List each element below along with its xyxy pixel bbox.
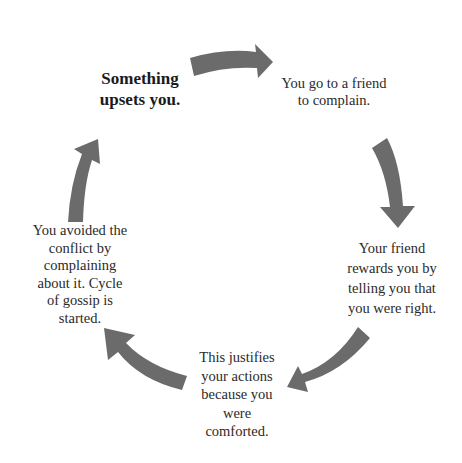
node-text-line: Your friend xyxy=(338,238,446,258)
arrow-down-icon xyxy=(372,138,415,228)
node-text-line: You go to a friend xyxy=(268,75,400,92)
node-text-line: started. xyxy=(24,310,136,328)
node-text-line: because you xyxy=(186,385,288,404)
node-something-upsets-you: Something upsets you. xyxy=(92,68,188,110)
node-text-line: conflict by xyxy=(24,240,136,258)
node-go-to-friend: You go to a friend to complain. xyxy=(268,75,400,109)
arrow-down-left-icon xyxy=(287,327,370,392)
node-friend-rewards-you: Your friend rewards you by telling you t… xyxy=(338,238,446,318)
node-text-line: This justifies xyxy=(186,348,288,367)
node-text-line: about it. Cycle xyxy=(24,275,136,293)
node-text-line: comforted. xyxy=(186,422,288,441)
node-text-line: to complain. xyxy=(268,92,400,109)
node-text-line: telling you that xyxy=(338,278,446,298)
node-text-line: rewards you by xyxy=(338,258,446,278)
node-text-line: were xyxy=(186,404,288,423)
node-avoided-conflict: You avoided the conflict by complaining … xyxy=(24,222,136,328)
node-text-line: of gossip is xyxy=(24,292,136,310)
arrow-up-left-icon xyxy=(104,328,187,390)
arrow-up-icon xyxy=(68,139,100,222)
node-justifies-actions: This justifies your actions because you … xyxy=(186,348,288,441)
node-text-line: You avoided the xyxy=(24,222,136,240)
node-text-line: your actions xyxy=(186,367,288,386)
node-text-line: upsets you. xyxy=(92,89,188,110)
arrow-right-icon xyxy=(190,44,273,78)
node-text-line: you were right. xyxy=(338,298,446,318)
gossip-cycle-diagram: Something upsets you. You go to a friend… xyxy=(0,0,462,463)
node-text-line: Something xyxy=(92,68,188,89)
node-text-line: complaining xyxy=(24,257,136,275)
